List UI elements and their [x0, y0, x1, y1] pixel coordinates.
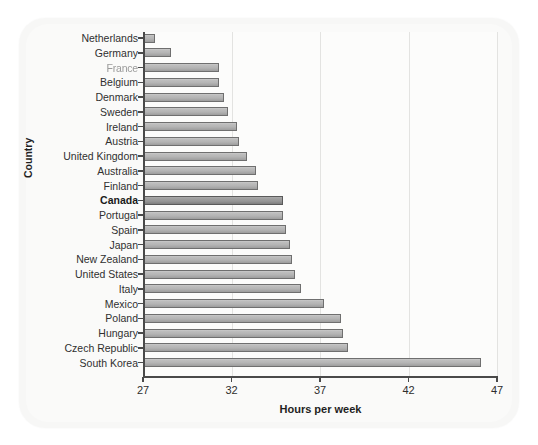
bar-portugal — [143, 211, 283, 220]
y-label-denmark: Denmark — [18, 92, 138, 102]
bar-hungary — [143, 329, 343, 338]
y-tick-mexico — [138, 303, 143, 305]
x-tick-37 — [319, 377, 321, 382]
y-label-portugal: Portugal — [18, 210, 138, 220]
y-label-ireland: Ireland — [18, 122, 138, 132]
x-label-47: 47 — [477, 384, 517, 396]
y-tick-australia — [138, 170, 143, 172]
plot-area — [143, 32, 497, 376]
y-tick-united-kingdom — [138, 155, 143, 157]
y-label-mexico: Mexico — [18, 299, 138, 309]
y-label-netherlands: Netherlands — [18, 33, 138, 43]
y-label-united-kingdom: United Kingdom — [18, 151, 138, 161]
bar-south-korea — [143, 358, 481, 367]
gridline-37 — [320, 32, 321, 376]
bar-spain — [143, 225, 286, 234]
y-label-belgium: Belgium — [18, 77, 138, 87]
y-tick-united-states — [138, 273, 143, 275]
y-tick-germany — [138, 52, 143, 54]
y-tick-netherlands — [138, 37, 143, 39]
y-tick-austria — [138, 141, 143, 143]
bar-belgium — [143, 78, 219, 87]
y-tick-belgium — [138, 82, 143, 84]
x-axis-title: Hours per week — [143, 403, 498, 415]
bar-new-zealand — [143, 255, 292, 264]
y-label-australia: Australia — [18, 166, 138, 176]
y-tick-denmark — [138, 96, 143, 98]
y-label-italy: Italy — [18, 284, 138, 294]
bar-poland — [143, 314, 341, 323]
bar-canada — [143, 196, 283, 205]
x-tick-47 — [496, 377, 498, 382]
gridline-42 — [409, 32, 410, 376]
bar-finland — [143, 181, 258, 190]
y-label-finland: Finland — [18, 181, 138, 191]
y-tick-sweden — [138, 111, 143, 113]
bar-united-kingdom — [143, 152, 247, 161]
y-axis-title: Country — [22, 138, 34, 178]
y-label-canada: Canada — [18, 195, 138, 205]
y-tick-czech-republic — [138, 347, 143, 349]
y-tick-south-korea — [138, 362, 143, 364]
bar-chart-figure: NetherlandsGermanyFranceBelgiumDenmarkSw… — [0, 0, 538, 445]
bar-austria — [143, 137, 239, 146]
x-tick-42 — [408, 377, 410, 382]
x-label-27: 27 — [123, 384, 163, 396]
bar-sweden — [143, 107, 228, 116]
y-label-france: France — [18, 63, 138, 73]
bar-denmark — [143, 93, 224, 102]
y-axis-tick-labels: NetherlandsGermanyFranceBelgiumDenmarkSw… — [12, 0, 138, 445]
y-label-spain: Spain — [18, 225, 138, 235]
bar-germany — [143, 48, 171, 57]
y-tick-new-zealand — [138, 259, 143, 261]
y-label-sweden: Sweden — [18, 107, 138, 117]
y-label-hungary: Hungary — [18, 328, 138, 338]
y-label-new-zealand: New Zealand — [18, 254, 138, 264]
x-tick-32 — [231, 377, 233, 382]
x-label-37: 37 — [300, 384, 340, 396]
y-tick-ireland — [138, 126, 143, 128]
bar-japan — [143, 240, 290, 249]
y-label-poland: Poland — [18, 313, 138, 323]
y-axis-line — [143, 32, 145, 377]
y-tick-france — [138, 67, 143, 69]
bar-mexico — [143, 299, 324, 308]
bar-australia — [143, 166, 256, 175]
gridline-47 — [497, 32, 498, 376]
x-tick-27 — [142, 377, 144, 382]
bar-france — [143, 63, 219, 72]
bar-czech-republic — [143, 343, 348, 352]
y-label-south-korea: South Korea — [18, 358, 138, 368]
y-tick-portugal — [138, 214, 143, 216]
bar-ireland — [143, 122, 237, 131]
y-tick-spain — [138, 229, 143, 231]
y-tick-italy — [138, 288, 143, 290]
y-label-japan: Japan — [18, 240, 138, 250]
x-label-42: 42 — [389, 384, 429, 396]
y-tick-japan — [138, 244, 143, 246]
y-label-germany: Germany — [18, 48, 138, 58]
y-tick-hungary — [138, 332, 143, 334]
y-label-austria: Austria — [18, 136, 138, 146]
y-label-czech-republic: Czech Republic — [18, 343, 138, 353]
bar-united-states — [143, 270, 295, 279]
bar-italy — [143, 284, 301, 293]
x-label-32: 32 — [212, 384, 252, 396]
y-tick-poland — [138, 318, 143, 320]
y-tick-canada — [138, 200, 143, 202]
y-tick-finland — [138, 185, 143, 187]
y-label-united-states: United States — [18, 269, 138, 279]
bar-netherlands — [143, 34, 155, 43]
